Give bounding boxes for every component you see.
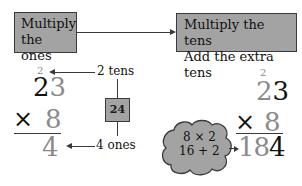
arrow-left-icon [49, 69, 55, 75]
cloud-line1: 8 × 2 [183, 131, 216, 143]
ones-vertical-line [117, 122, 118, 136]
ones-label: 4 ones [96, 139, 136, 151]
left-top-number: 23 [33, 75, 66, 99]
step1-line1: Multiply [21, 16, 76, 32]
left-top-ones: 3 [50, 72, 67, 102]
product-value: 24 [110, 103, 125, 116]
left-operator: × [13, 107, 33, 131]
step-connector-line [77, 32, 172, 33]
right-operator: × [235, 110, 255, 134]
tens-arrow-line [52, 72, 95, 73]
left-top-tens: 2 [33, 72, 50, 102]
arrow-left-icon [66, 143, 72, 149]
right-multiplier: 8 [264, 110, 281, 134]
tens-vertical-line [117, 79, 118, 98]
ones-arrow-line [70, 146, 95, 147]
right-result: 184 [238, 135, 285, 159]
right-result-gray: 18 [238, 132, 269, 162]
right-top-ones: 3 [273, 76, 290, 106]
step2-line1: Multiply the tens [184, 17, 296, 49]
tens-label: 2 tens [97, 65, 134, 77]
step-box-multiply-tens: Multiply the tens Add the extra tens [176, 13, 297, 52]
right-result-black: 4 [269, 132, 285, 162]
right-top-number: 23 [256, 79, 289, 103]
cloud-line2: 16 + 2 [179, 145, 220, 157]
step1-line2: the ones [21, 32, 76, 64]
product-box: 24 [105, 98, 130, 122]
left-result: 4 [42, 135, 59, 159]
left-multiplier: 8 [45, 107, 62, 131]
right-top-tens: 2 [256, 76, 273, 106]
step-box-multiply-ones: Multiply the ones [14, 12, 77, 53]
